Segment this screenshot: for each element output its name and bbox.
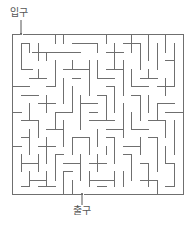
exit-marker — [81, 193, 83, 195]
entrance-marker — [20, 33, 22, 35]
maze-walls — [13, 35, 184, 195]
maze-grid — [0, 0, 194, 231]
